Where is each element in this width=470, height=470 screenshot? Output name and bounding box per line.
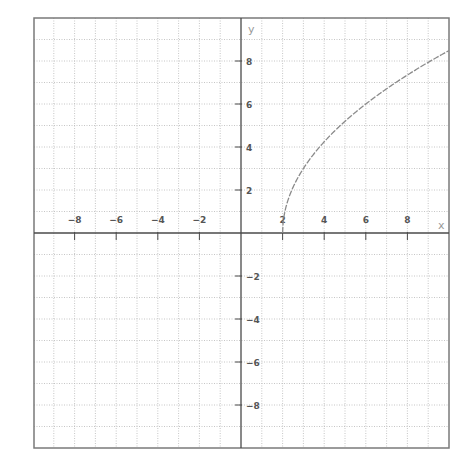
y-tick-label: −8 <box>246 401 260 411</box>
x-tick-label: −6 <box>109 215 123 225</box>
y-tick-label: 2 <box>246 186 252 196</box>
y-tick-label: 6 <box>246 100 252 110</box>
x-axis-label: x <box>438 219 445 232</box>
y-tick-label: 4 <box>246 143 252 153</box>
x-tick-label: −8 <box>68 215 82 225</box>
x-tick-label: −2 <box>192 215 206 225</box>
y-tick-label: −4 <box>246 315 260 325</box>
y-tick-label: 8 <box>246 57 252 67</box>
x-tick-label: 6 <box>363 215 369 225</box>
y-axis-label: y <box>248 23 255 36</box>
function-graph: −8−6−4−22468 8642−2−4−6−8 x y <box>0 0 470 470</box>
y-tick-label: −2 <box>246 272 260 282</box>
x-tick-label: 4 <box>321 215 327 225</box>
x-tick-label: 8 <box>404 215 410 225</box>
x-tick-label: −4 <box>151 215 165 225</box>
y-tick-label: −6 <box>246 358 260 368</box>
